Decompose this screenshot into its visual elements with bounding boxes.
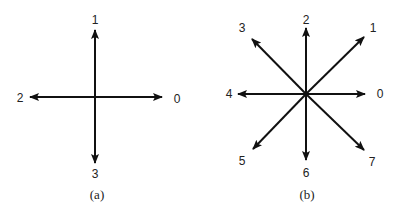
label-a-1: 1 (92, 13, 99, 27)
caption-b: (b) (299, 187, 314, 202)
arrow-7 (306, 94, 364, 150)
arrow-3 (252, 39, 306, 94)
label-b-1: 1 (370, 21, 377, 35)
label-a-2: 2 (17, 91, 24, 105)
label-b-5: 5 (239, 154, 246, 168)
label-a-3: 3 (92, 167, 99, 181)
label-b-7: 7 (369, 155, 376, 169)
eight-direction-diagram (238, 28, 365, 160)
direction-diagrams: 0 1 2 3 (a) 0 1 2 3 4 5 6 7 (b) (0, 0, 397, 212)
label-b-6: 6 (303, 166, 310, 180)
label-b-3: 3 (239, 21, 246, 35)
arrow-5 (253, 94, 306, 149)
label-b-0: 0 (377, 87, 384, 101)
label-b-4: 4 (226, 87, 233, 101)
caption-a: (a) (90, 187, 104, 202)
label-a-0: 0 (174, 92, 181, 106)
label-b-2: 2 (303, 13, 310, 27)
arrow-1 (306, 37, 364, 94)
four-direction-diagram (30, 30, 162, 163)
